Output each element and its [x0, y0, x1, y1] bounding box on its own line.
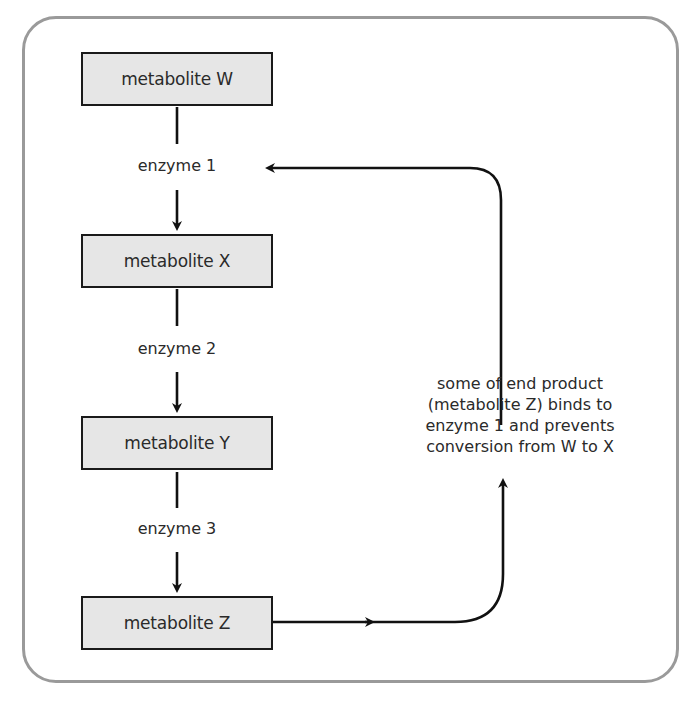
metabolite-y-box: metabolite Y: [81, 416, 273, 470]
note-line-2: (metabolite Z) binds to: [395, 394, 645, 415]
metabolite-x-box: metabolite X: [81, 234, 273, 288]
metabolite-z-label: metabolite Z: [124, 613, 231, 633]
metabolite-w-label: metabolite W: [121, 69, 233, 89]
note-line-4: conversion from W to X: [395, 436, 645, 457]
metabolite-y-label: metabolite Y: [124, 433, 229, 453]
enzyme-1-label: enzyme 1: [110, 156, 244, 175]
note-line-3: enzyme 1 and prevents: [395, 415, 645, 436]
enzyme-2-label: enzyme 2: [110, 339, 244, 358]
feedback-inhibition-note: some of end product (metabolite Z) binds…: [395, 373, 645, 457]
feedback-arrow-up: [365, 483, 503, 622]
metabolite-x-label: metabolite X: [124, 251, 231, 271]
metabolite-z-box: metabolite Z: [81, 596, 273, 650]
metabolite-w-box: metabolite W: [81, 52, 273, 106]
enzyme-3-label: enzyme 3: [110, 519, 244, 538]
note-line-1: some of end product: [395, 373, 645, 394]
